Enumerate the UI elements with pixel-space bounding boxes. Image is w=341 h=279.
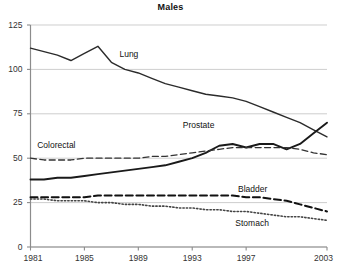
chart-container: Males 0255075100125 19811985198919931997…: [0, 0, 341, 279]
y-axis-tick-label: 50: [1, 153, 23, 163]
x-axis-tick-label: 2003: [306, 253, 341, 263]
series-line-lung: [31, 46, 328, 137]
y-axis-tick-label: 0: [1, 242, 23, 252]
x-axis-tick-label: 1985: [66, 253, 102, 263]
y-axis-tick-label: 25: [1, 197, 23, 207]
series-line-stomach: [31, 199, 328, 220]
series-line-prostate: [31, 123, 328, 180]
y-axis-tick-label: 75: [1, 108, 23, 118]
x-axis-tick-label: 1993: [174, 253, 210, 263]
series-label-bladder: Bladder: [238, 184, 267, 194]
y-axis-tick-label: 125: [1, 20, 23, 30]
series-line-bladder: [31, 196, 328, 212]
series-label-prostate: Prostate: [183, 120, 215, 130]
series-label-stomach: Stomach: [235, 218, 269, 228]
x-axis-tick-label: 1981: [15, 253, 51, 263]
x-axis-tick-label: 1997: [228, 253, 264, 263]
series-label-lung: Lung: [119, 49, 138, 59]
series-label-colorectal: Colorectal: [37, 140, 75, 150]
x-axis-tick-label: 1989: [120, 253, 156, 263]
y-axis-tick-label: 100: [1, 64, 23, 74]
